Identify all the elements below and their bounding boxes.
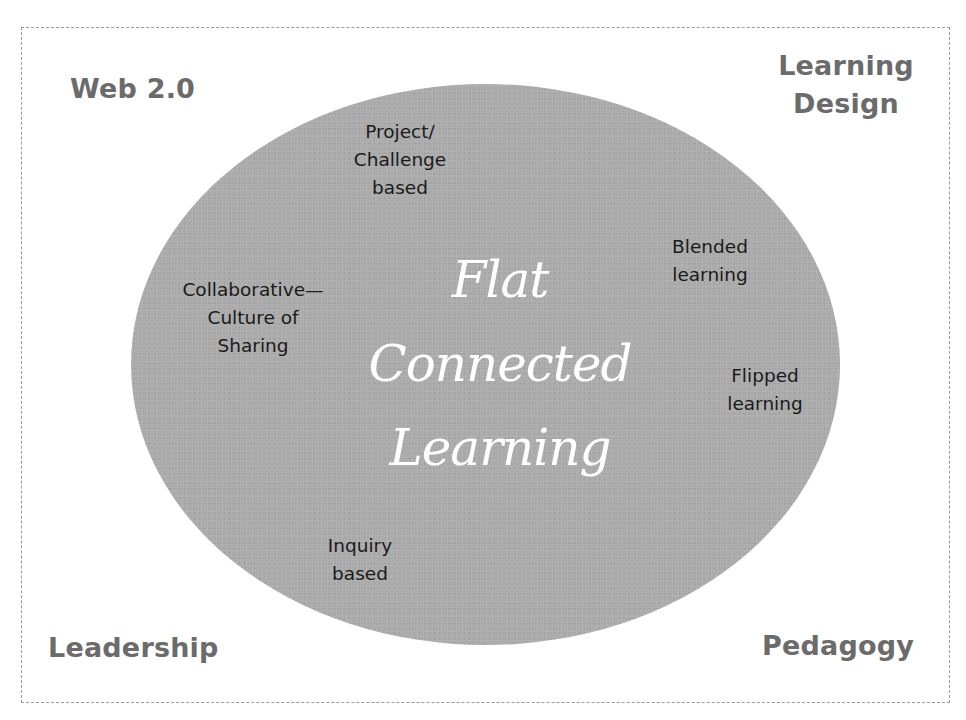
title-line: Connected <box>360 322 640 406</box>
topic-line: Collaborative— <box>168 276 338 304</box>
topic-line: Challenge <box>330 146 470 174</box>
topic-line: Flipped <box>700 362 830 390</box>
topic-line: based <box>300 560 420 588</box>
center-title-flat-connected-learning: Flat Connected Learning <box>360 238 640 490</box>
topic-line: learning <box>645 261 775 289</box>
corner-label-leadership: Leadership <box>48 629 219 667</box>
topic-inquiry-based: Inquiry based <box>300 532 420 588</box>
topic-project-challenge-based: Project/ Challenge based <box>330 118 470 202</box>
topic-flipped-learning: Flipped learning <box>700 362 830 418</box>
corner-label-learning-design: Learning Design <box>768 47 924 123</box>
topic-line: Inquiry <box>300 532 420 560</box>
title-line: Learning <box>360 406 640 490</box>
corner-label-web-2-0: Web 2.0 <box>70 70 195 108</box>
topic-line: learning <box>700 390 830 418</box>
topic-line: Project/ <box>330 118 470 146</box>
topic-blended-learning: Blended learning <box>645 233 775 289</box>
topic-line: Sharing <box>168 332 338 360</box>
corner-label-line: Learning <box>768 47 924 85</box>
corner-label-pedagogy: Pedagogy <box>762 627 914 665</box>
topic-line: Blended <box>645 233 775 261</box>
corner-label-line: Design <box>768 85 924 123</box>
topic-line: Culture of <box>168 304 338 332</box>
topic-line: based <box>330 174 470 202</box>
topic-collaborative-culture-of-sharing: Collaborative— Culture of Sharing <box>168 276 338 360</box>
title-line: Flat <box>360 238 640 322</box>
